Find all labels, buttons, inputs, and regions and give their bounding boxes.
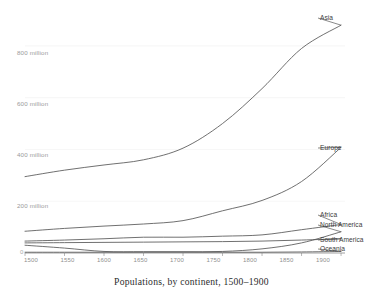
series-label-south-america: South America <box>320 236 364 243</box>
series-label-north-america: North America <box>320 221 362 228</box>
series-label-africa: Africa <box>320 211 337 218</box>
series-label-oceania: Oceania <box>320 245 345 252</box>
gridlines <box>25 46 345 201</box>
chart-title: Populations, by continent, 1500–1900 <box>0 276 383 287</box>
chart-container: 800 million 600 million 400 million 200 … <box>0 0 383 298</box>
series-lines <box>25 25 341 252</box>
series-label-europe: Europe <box>320 144 342 151</box>
series-line-europe <box>25 147 341 231</box>
series-line-asia <box>25 25 341 176</box>
series-line-africa <box>25 225 341 242</box>
series-label-asia: Asia <box>320 14 333 21</box>
x-axis-ticks <box>25 253 341 256</box>
